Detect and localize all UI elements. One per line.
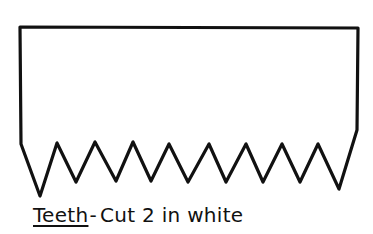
caption-separator: - [89,203,97,227]
teeth-outline-shape [20,27,358,196]
teeth-template-drawing [0,0,373,234]
caption-instruction: Cut 2 in white [100,203,243,227]
caption: Teeth-Cut 2 in white [33,202,243,228]
caption-title: Teeth [33,203,88,227]
